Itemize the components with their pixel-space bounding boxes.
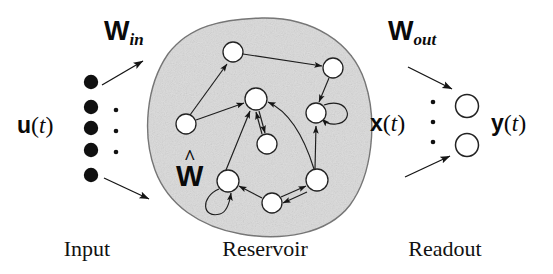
input-ellipsis-dots bbox=[114, 108, 119, 155]
y-vector-symbol: y bbox=[491, 110, 504, 136]
ellipsis-dot bbox=[431, 140, 436, 145]
readout-node bbox=[456, 95, 479, 118]
w-out-label: Wout bbox=[388, 18, 436, 45]
w-hat-label: ^W bbox=[176, 160, 203, 193]
readout-ellipsis-dots bbox=[431, 100, 436, 145]
diagram-canvas bbox=[0, 0, 553, 274]
readout-node-group bbox=[456, 95, 479, 157]
w-in-arrow-group bbox=[102, 61, 149, 199]
x-close-paren: ) bbox=[397, 110, 405, 136]
w-out-subscript: out bbox=[413, 30, 436, 49]
ellipsis-dot bbox=[114, 129, 119, 134]
reservoir-node bbox=[323, 58, 343, 78]
x-of-t-label: x(t) bbox=[370, 111, 405, 135]
u-open-paren: ( bbox=[31, 112, 39, 138]
x-vector-symbol: x bbox=[370, 110, 383, 136]
reservoir-node bbox=[306, 169, 328, 191]
y-open-paren: ( bbox=[504, 110, 512, 136]
input-node-group bbox=[84, 75, 98, 182]
input-node bbox=[84, 100, 98, 114]
ellipsis-dot bbox=[114, 150, 119, 155]
x-open-paren: ( bbox=[383, 110, 391, 136]
w-out-base: W bbox=[388, 16, 413, 46]
u-vector-symbol: u bbox=[17, 112, 31, 138]
w-hat-accent: ^ bbox=[184, 147, 196, 167]
caption-readout: Readout bbox=[385, 238, 505, 260]
ellipsis-dot bbox=[114, 108, 119, 113]
reservoir-node bbox=[223, 42, 243, 62]
reservoir-node bbox=[306, 103, 326, 123]
reservoir-node bbox=[176, 114, 196, 134]
w-in-subscript: in bbox=[129, 30, 143, 49]
w-in-label: Win bbox=[104, 18, 144, 45]
w-out-arrow-bottom bbox=[405, 156, 450, 177]
ellipsis-dot bbox=[431, 120, 436, 125]
u-of-t-label: u(t) bbox=[17, 113, 53, 137]
w-in-arrow-top bbox=[102, 61, 143, 85]
w-in-arrow-bottom bbox=[104, 178, 149, 199]
y-of-t-label: y(t) bbox=[491, 111, 526, 135]
input-node bbox=[84, 121, 98, 135]
caption-input: Input bbox=[32, 238, 142, 260]
reservoir-node bbox=[262, 193, 282, 213]
u-close-paren: ) bbox=[45, 112, 53, 138]
caption-reservoir: Reservoir bbox=[200, 238, 330, 260]
w-out-arrow-top bbox=[408, 67, 452, 89]
esn-schematic-figure: Win u(t) ^W Wout x(t) y(t) Input Reservo… bbox=[0, 0, 553, 274]
w-out-arrow-group bbox=[405, 67, 452, 177]
reservoir-node bbox=[217, 170, 239, 192]
y-close-paren: ) bbox=[518, 110, 526, 136]
reservoir-node bbox=[257, 134, 277, 154]
reservoir-node bbox=[245, 88, 267, 110]
input-node bbox=[84, 75, 98, 89]
ellipsis-dot bbox=[431, 100, 436, 105]
w-in-base: W bbox=[104, 16, 129, 46]
input-node bbox=[84, 168, 98, 182]
readout-node bbox=[456, 134, 479, 157]
input-node bbox=[84, 143, 98, 157]
